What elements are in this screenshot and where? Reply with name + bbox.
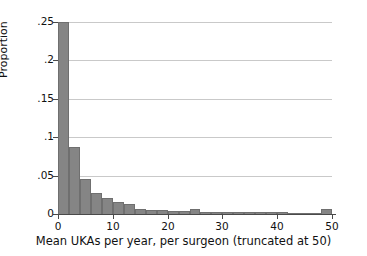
x-tick-label: 30: [202, 221, 242, 232]
y-tick-label: .05: [2, 170, 54, 180]
histogram-bar: [91, 193, 102, 214]
histogram-bar: [299, 213, 310, 214]
y-tick-label: .1: [2, 131, 54, 141]
histogram-bar: [255, 212, 266, 214]
y-axis-title: Proportion: [0, 21, 10, 78]
histogram-bar: [233, 212, 244, 214]
y-tick-label: .15: [2, 93, 54, 103]
x-tick-label: 0: [38, 221, 78, 232]
histogram-bar: [266, 212, 277, 214]
histogram-bar: [190, 209, 201, 214]
histogram-bar: [211, 212, 222, 214]
x-tick-label: 50: [312, 221, 352, 232]
y-tick-label: .25: [2, 16, 54, 26]
histogram-bar: [200, 212, 211, 214]
histogram-bar: [244, 212, 255, 214]
histogram-bar: [113, 202, 124, 214]
histogram-bar: [80, 179, 91, 214]
histogram-bar: [69, 147, 80, 214]
histogram-bar: [124, 204, 135, 214]
histogram-bar: [179, 211, 190, 214]
plot-area: [58, 22, 332, 214]
histogram-bar: [277, 212, 288, 214]
x-tick-label: 10: [93, 221, 133, 232]
histogram-chart: Proportion 0.05.1.15.2.25 01020304050 Me…: [0, 0, 367, 256]
histogram-bar: [58, 22, 69, 214]
histogram-bar: [288, 213, 299, 214]
histogram-bar: [102, 198, 113, 214]
y-tick-label: .2: [2, 54, 54, 64]
histogram-bar: [157, 210, 168, 214]
histogram-bar: [168, 211, 179, 214]
x-axis-title: Mean UKAs per year, per surgeon (truncat…: [0, 234, 367, 248]
x-tick-label: 40: [257, 221, 297, 232]
histogram-bar: [222, 212, 233, 214]
histogram-bar: [310, 213, 321, 214]
histogram-bar: [135, 209, 146, 214]
x-axis-line: [56, 214, 336, 215]
y-tick-label: 0: [2, 208, 54, 218]
histogram-bar: [321, 209, 332, 214]
histogram-bar: [146, 210, 157, 214]
x-tick-label: 20: [148, 221, 188, 232]
